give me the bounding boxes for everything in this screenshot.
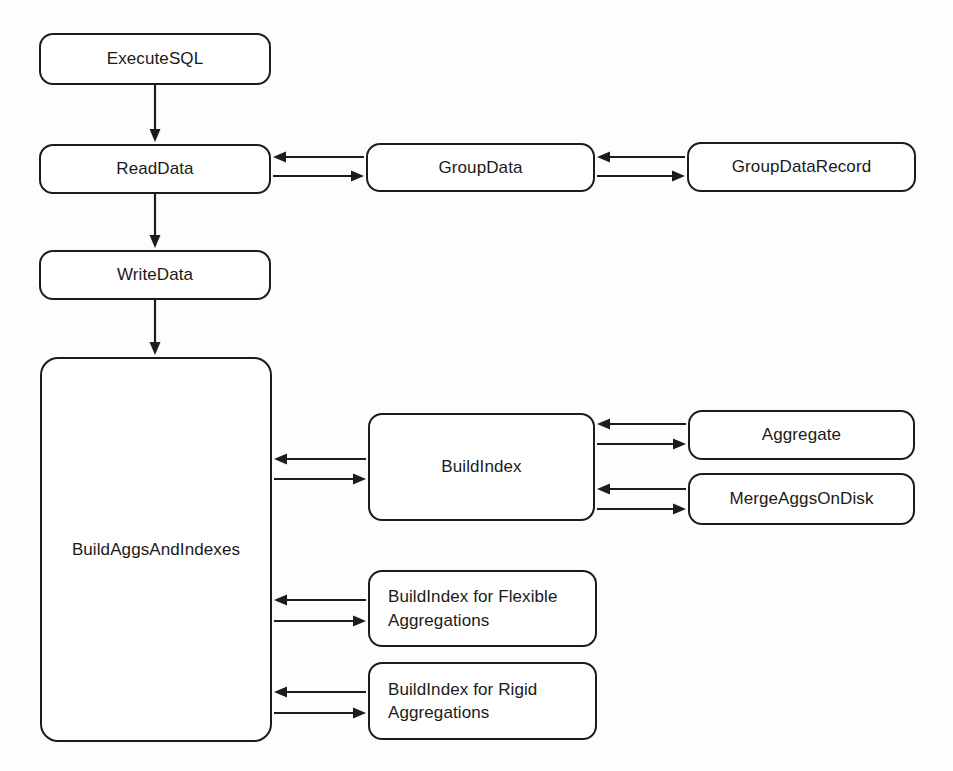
node-group_data[interactable]: GroupData (366, 143, 595, 192)
edge-read_data-to-write_data (150, 194, 161, 248)
node-build_aggs_and_indexes[interactable]: BuildAggsAndIndexes (40, 357, 272, 742)
node-execute_sql[interactable]: ExecuteSQL (39, 33, 271, 85)
diagram-canvas: ExecuteSQLReadDataWriteDataBuildAggsAndI… (0, 0, 953, 771)
node-read_data[interactable]: ReadData (39, 144, 271, 194)
arrowhead-down-icon (150, 235, 161, 248)
node-label-aggregate: Aggregate (752, 423, 851, 446)
arrowhead-right-icon (353, 708, 366, 719)
arrowhead-right-icon (673, 504, 686, 515)
edge-rigid-to-build_aggs (274, 687, 366, 698)
node-group_data_record[interactable]: GroupDataRecord (687, 142, 916, 192)
edge-write_data-to-build_aggs (150, 300, 161, 355)
edge-build_aggs-to-rigid (274, 708, 366, 719)
arrowhead-right-icon (353, 474, 366, 485)
arrowhead-left-icon (273, 152, 286, 163)
node-label-execute_sql: ExecuteSQL (97, 47, 213, 70)
edge-build_index-to-build_aggs (274, 454, 366, 465)
edge-build_aggs-to-flexible (274, 616, 366, 627)
node-aggregate[interactable]: Aggregate (688, 410, 915, 460)
edge-execute_sql-to-read_data (150, 85, 161, 142)
edge-group_data_record-to-group_data (597, 152, 685, 163)
node-label-group_data_record: GroupDataRecord (722, 155, 881, 178)
arrowhead-left-icon (274, 687, 287, 698)
node-label-build_aggs_and_indexes: BuildAggsAndIndexes (62, 538, 250, 561)
edge-aggregate-to-build_index (597, 419, 686, 430)
arrowhead-right-icon (353, 616, 366, 627)
node-label-write_data: WriteData (107, 263, 203, 286)
arrowhead-right-icon (673, 439, 686, 450)
edge-build_aggs-to-build_index (274, 474, 366, 485)
node-build_index_rigid[interactable]: BuildIndex for RigidAggregations (368, 662, 597, 740)
edge-read_data-to-group_data (273, 171, 364, 182)
node-label-build_index: BuildIndex (431, 455, 531, 478)
node-merge_aggs_on_disk[interactable]: MergeAggsOnDisk (688, 473, 915, 525)
edge-group_data-to-group_data_record (597, 171, 685, 182)
node-build_index_flexible[interactable]: BuildIndex for FlexibleAggregations (368, 570, 597, 647)
edge-flexible-to-build_aggs (274, 595, 366, 606)
edge-merge_aggs-to-build_index (597, 484, 686, 495)
arrowhead-left-icon (274, 454, 287, 465)
node-label-group_data: GroupData (428, 156, 532, 179)
node-write_data[interactable]: WriteData (39, 250, 271, 300)
node-build_index[interactable]: BuildIndex (368, 413, 595, 521)
arrowhead-right-icon (672, 171, 685, 182)
arrowhead-left-icon (597, 419, 610, 430)
node-label-merge_aggs_on_disk: MergeAggsOnDisk (719, 487, 883, 510)
edge-group_data-to-read_data (273, 152, 364, 163)
arrowhead-down-icon (150, 342, 161, 355)
edge-build_index-to-merge_aggs (597, 504, 686, 515)
node-label-read_data: ReadData (106, 157, 203, 180)
edge-build_index-to-aggregate (597, 439, 686, 450)
node-label-build_index_flexible: BuildIndex for FlexibleAggregations (370, 585, 568, 632)
node-label-build_index_rigid: BuildIndex for RigidAggregations (370, 678, 547, 725)
arrowhead-left-icon (597, 484, 610, 495)
arrowhead-down-icon (150, 129, 161, 142)
arrowhead-left-icon (274, 595, 287, 606)
arrowhead-right-icon (351, 171, 364, 182)
arrowhead-left-icon (597, 152, 610, 163)
